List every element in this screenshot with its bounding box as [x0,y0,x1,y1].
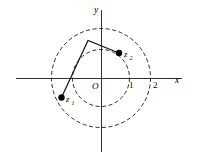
point-z2-label-base: z [123,49,128,59]
point-z1-dot [58,94,64,100]
point-z2-label-subscript: 2 [130,55,133,61]
figure-canvas: y x O 1 2 z 1 z 2 [0,0,197,166]
y-axis-label: y [93,5,99,15]
z1-vertex-z2-polyline [62,41,120,98]
tick-label-1: 1 [129,80,134,90]
point-z1-label-base: z [65,94,70,104]
inner-circle [73,50,130,107]
origin-label: O [92,81,99,91]
outer-circle [52,29,151,128]
point-z1-label-subscript: 1 [72,100,75,106]
point-z2-label: z 2 [123,49,133,61]
point-z2-dot [116,50,122,56]
complex-plane-figure: y x O 1 2 z 1 z 2 [0,0,197,166]
tick-label-2: 2 [153,80,158,90]
point-z1-label: z 1 [65,94,75,106]
x-axis-label: x [174,75,180,85]
